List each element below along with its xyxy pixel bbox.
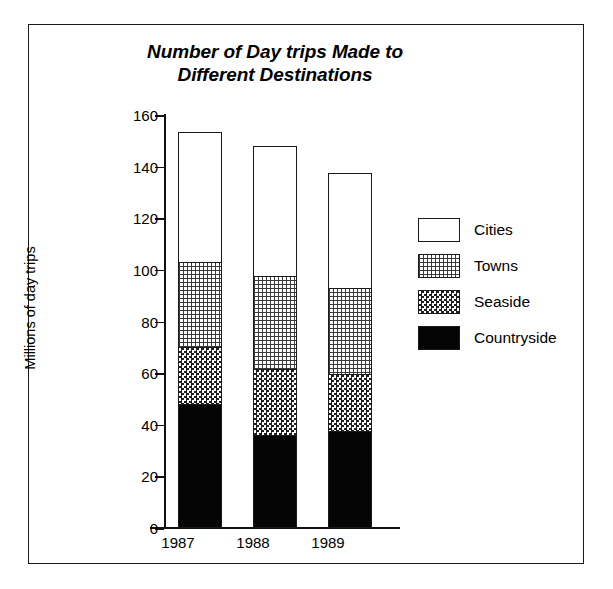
bar-1987-segment-cities (178, 132, 223, 262)
bar-1988-segment-cities (253, 146, 298, 276)
legend-label-cities: Cities (474, 221, 513, 239)
legend-item-towns[interactable]: Towns (418, 248, 557, 284)
bar-1988[interactable] (253, 146, 297, 528)
legend-label-towns: Towns (474, 257, 518, 275)
bar-1989[interactable] (328, 173, 372, 528)
bar-1989-segment-seaside (328, 374, 373, 431)
chart-title-line-1: Number of Day trips Made to (110, 40, 440, 63)
chart-title: Number of Day trips Made to Different De… (110, 40, 440, 86)
legend-label-countryside: Countryside (474, 329, 557, 347)
legend-item-cities[interactable]: Cities (418, 212, 557, 248)
bar-1987-segment-seaside (178, 347, 223, 404)
legend-swatch-countryside-icon (418, 326, 460, 350)
bar-1988-segment-towns (253, 276, 298, 369)
chart-figure: Number of Day trips Made to Different De… (0, 0, 613, 589)
bar-1989-segment-towns (328, 288, 373, 375)
y-tick-label-20: 20 (141, 468, 158, 485)
y-tick-label-140: 140 (133, 158, 158, 175)
x-tick-label-1987: 1987 (143, 534, 213, 551)
legend-swatch-towns-icon (418, 254, 460, 278)
legend-swatch-seaside-icon (418, 290, 460, 314)
y-tick-label-160: 160 (133, 107, 158, 124)
legend-item-seaside[interactable]: Seaside (418, 284, 557, 320)
legend-item-countryside[interactable]: Countryside (418, 320, 557, 356)
bar-1987[interactable] (178, 132, 222, 528)
y-tick-label-120: 120 (133, 210, 158, 227)
y-tick-label-100: 100 (133, 261, 158, 278)
y-tick-label-60: 60 (141, 365, 158, 382)
bar-1989-segment-cities (328, 173, 373, 288)
bar-1987-segment-towns (178, 262, 223, 347)
bar-1989-segment-countryside (328, 431, 373, 528)
bar-1988-segment-seaside (253, 369, 298, 435)
y-tick-label-80: 80 (141, 313, 158, 330)
x-tick-label-1988: 1988 (218, 534, 288, 551)
y-axis-label: Millions of day trips (22, 218, 38, 398)
y-tick-label-40: 40 (141, 416, 158, 433)
chart-legend: Cities Towns Seaside Countryside (418, 212, 557, 356)
x-tick-label-1989: 1989 (293, 534, 363, 551)
plot-area: 0 20 40 60 80 100 120 140 (164, 115, 386, 528)
chart-title-line-2: Different Destinations (110, 63, 440, 86)
bar-1987-segment-countryside (178, 404, 223, 528)
legend-swatch-cities-icon (418, 218, 460, 242)
legend-label-seaside: Seaside (474, 293, 530, 311)
bar-1988-segment-countryside (253, 435, 298, 528)
